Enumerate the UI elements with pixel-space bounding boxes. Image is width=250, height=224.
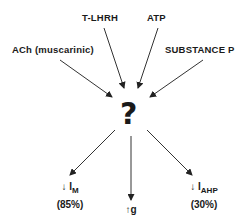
output-iahp: ↓ IAHP (30%)	[178, 180, 230, 212]
input-ach: ACh (muscarinic)	[12, 44, 94, 55]
iahp-percent: (30%)	[178, 198, 230, 212]
unknown-mechanism: ?	[120, 96, 137, 131]
down-arrow-icon: ↓	[190, 181, 195, 192]
arrow-im	[70, 130, 115, 175]
im-percent: (85%)	[48, 198, 92, 212]
output-im: ↓ IM (85%)	[48, 180, 92, 212]
input-substance-p: SUBSTANCE P	[165, 44, 235, 55]
arrow-atp	[138, 28, 158, 88]
input-atp: ATP	[147, 12, 166, 23]
down-arrow-icon: ↓	[61, 181, 66, 192]
input-t-lhrh: T-LHRH	[82, 12, 118, 23]
output-g: ↑g	[118, 203, 144, 217]
arrow-iahp	[147, 130, 192, 175]
arrow-substance-p	[150, 60, 203, 97]
arrow-ach	[60, 60, 112, 97]
arrow-t-lhrh	[104, 28, 124, 88]
